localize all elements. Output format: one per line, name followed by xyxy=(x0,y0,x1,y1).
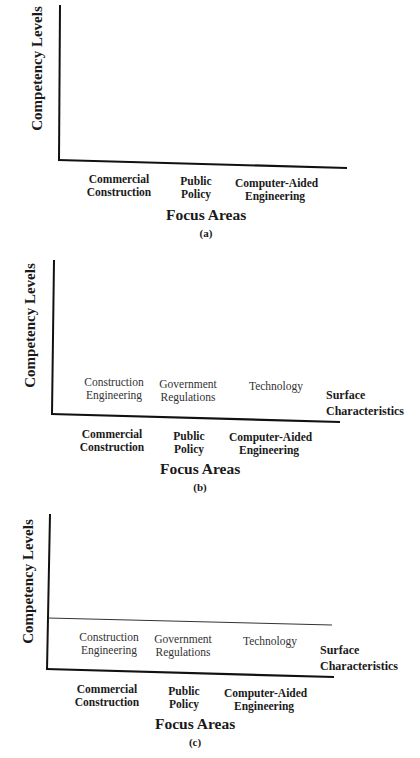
y-axis-b xyxy=(52,260,54,414)
y-axis-c xyxy=(47,514,50,670)
focus-area-label: Commercial Construction xyxy=(84,173,154,199)
focus-area-label: Commercial Construction xyxy=(72,683,142,709)
x-axis-c xyxy=(46,669,334,677)
competency-threshold-line xyxy=(48,618,332,625)
surface-characteristic-label: Construction Engineering xyxy=(82,376,146,402)
surface-characteristic-label: Technology xyxy=(238,635,302,648)
y-axis-a xyxy=(59,5,60,160)
panel-caption: (a) xyxy=(186,227,226,239)
focus-area-label: Public Policy xyxy=(169,430,209,456)
x-axis-a xyxy=(58,160,347,168)
focus-area-label: Computer-Aided Engineering xyxy=(224,687,304,713)
focus-area-label: Public Policy xyxy=(164,685,204,711)
panel-caption: (c) xyxy=(175,736,215,748)
surface-characteristic-label: Construction Engineering xyxy=(77,631,141,657)
x-axis-label: Focus Areas xyxy=(166,206,246,223)
y-axis-label: Competency Levels xyxy=(20,512,37,652)
focus-area-label: Commercial Construction xyxy=(77,428,147,454)
surface-characteristics-axis-label: Surface Characteristics xyxy=(326,387,404,419)
x-axis-b xyxy=(51,414,340,422)
x-axis-label: Focus Areas xyxy=(160,460,240,477)
y-axis-label: Competency Levels xyxy=(22,256,39,396)
x-axis-label: Focus Areas xyxy=(155,715,235,732)
surface-characteristic-label: Government Regulations xyxy=(156,378,220,404)
focus-area-label: Computer-Aided Engineering xyxy=(235,177,315,203)
focus-area-label: Public Policy xyxy=(176,175,216,201)
surface-characteristics-axis-label: Surface Characteristics xyxy=(320,642,398,674)
surface-characteristic-label: Technology xyxy=(244,380,308,393)
y-axis-label: Competency Levels xyxy=(29,0,46,139)
focus-area-label: Computer-Aided Engineering xyxy=(229,431,309,457)
surface-characteristic-label: Government Regulations xyxy=(151,633,215,659)
panel-caption: (b) xyxy=(180,481,220,493)
